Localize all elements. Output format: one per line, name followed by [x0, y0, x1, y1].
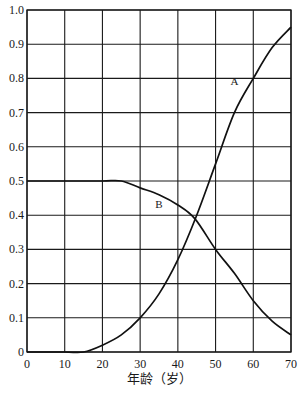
curve-label-a: A: [230, 75, 238, 87]
x-axis-ticks: 010203040506070: [24, 357, 297, 371]
x-tick-label: 40: [172, 357, 184, 371]
y-tick-label: 0.4: [9, 208, 24, 222]
y-tick-label: 0.9: [9, 37, 24, 51]
y-axis-ticks: 00.10.20.30.40.50.60.70.80.91.0: [9, 3, 24, 359]
x-tick-label: 10: [59, 357, 71, 371]
y-tick-label: 0.6: [9, 140, 24, 154]
x-tick-label: 30: [134, 357, 146, 371]
y-tick-label: 0.5: [9, 174, 24, 188]
x-tick-label: 60: [247, 357, 259, 371]
x-tick-label: 50: [210, 357, 222, 371]
curves: AB: [27, 27, 291, 352]
y-tick-label: 0.3: [9, 242, 24, 256]
x-tick-label: 0: [24, 357, 30, 371]
y-tick-label: 1.0: [9, 3, 24, 17]
x-axis-label: 年龄（岁）: [127, 371, 192, 386]
y-tick-label: 0.2: [9, 277, 24, 291]
y-tick-label: 0.8: [9, 71, 24, 85]
line-chart: 00.10.20.30.40.50.60.70.80.91.0 01020304…: [0, 0, 302, 393]
y-tick-label: 0.7: [9, 106, 24, 120]
x-tick-label: 70: [285, 357, 297, 371]
curve-label-b: B: [155, 198, 162, 210]
curve-a: [27, 27, 291, 352]
y-tick-label: 0.1: [9, 311, 24, 325]
x-tick-label: 20: [96, 357, 108, 371]
